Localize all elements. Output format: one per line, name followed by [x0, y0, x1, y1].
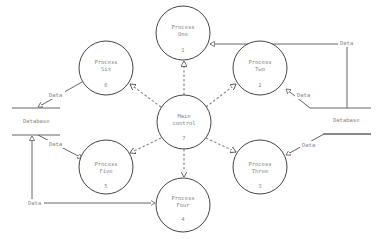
process-name: Two — [255, 66, 265, 72]
process-name: Process — [94, 59, 117, 65]
process-name: Process — [248, 161, 271, 167]
flow-label-data: Data — [49, 141, 62, 147]
main-control[interactable]: Main control 7 — [157, 95, 211, 149]
data-store-right[interactable]: Database — [323, 108, 371, 134]
process-number: 7 — [182, 135, 185, 141]
process-two[interactable]: Process Two 2 — [233, 41, 287, 95]
flow-label-data: Data — [302, 142, 315, 148]
process-five[interactable]: Process Five 5 — [79, 140, 133, 194]
process-name: Four — [176, 202, 190, 208]
flow-label-data: Data — [340, 40, 353, 46]
data-store-label: Database — [23, 118, 50, 124]
process-name: Process — [94, 161, 117, 167]
data-store-left[interactable]: Database — [12, 108, 60, 135]
process-three[interactable]: Process Three 3 — [233, 140, 287, 194]
flow-label-data: Data — [49, 92, 62, 98]
process-one[interactable]: Process One 1 — [156, 6, 210, 60]
process-four[interactable]: Process Four 4 — [156, 178, 210, 232]
process-name: Three — [252, 168, 269, 174]
process-name: Five — [99, 168, 112, 174]
process-number: 3 — [258, 183, 261, 189]
flow-label-data: Data — [297, 92, 310, 98]
process-name: control — [172, 120, 195, 126]
process-number: 1 — [181, 47, 184, 53]
process-name: One — [178, 31, 188, 37]
process-name: Six — [101, 66, 112, 72]
process-number: 5 — [104, 183, 107, 189]
process-six[interactable]: Process Six 6 — [79, 41, 133, 95]
process-name: Process — [171, 195, 194, 201]
data-store-label: Database — [333, 117, 360, 123]
process-name: Main — [177, 113, 190, 119]
flow-label-data: Data — [28, 200, 41, 206]
data-flow-diagram: Data Data Data Data Data Data Database D… — [0, 0, 382, 239]
process-number: 6 — [104, 82, 107, 88]
process-number: 2 — [258, 82, 261, 88]
process-name: Process — [248, 59, 271, 65]
process-name: Process — [171, 24, 194, 30]
